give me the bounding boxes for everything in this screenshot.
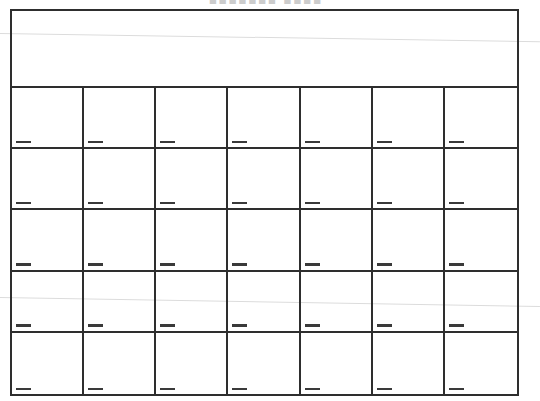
day-cell: [156, 210, 228, 271]
date-line-mark: [88, 202, 103, 205]
date-line-mark: [232, 388, 247, 391]
date-line-mark: [305, 202, 320, 205]
day-cell: [373, 210, 445, 271]
day-cell: [373, 333, 445, 394]
day-cell: [301, 272, 373, 333]
date-line-mark: [377, 141, 392, 144]
date-line-mark: [449, 141, 464, 144]
day-cell: [12, 210, 84, 271]
day-cell: [228, 88, 300, 149]
day-cell: [84, 210, 156, 271]
date-line-mark: [88, 388, 103, 391]
day-cell: [373, 88, 445, 149]
date-line-mark: [305, 324, 320, 327]
date-line-mark: [88, 141, 103, 144]
day-cell: [156, 149, 228, 210]
day-cell: [156, 333, 228, 394]
date-line-mark: [377, 324, 392, 327]
date-line-mark: [232, 141, 247, 144]
date-line-mark: [377, 263, 392, 266]
day-cell: [12, 88, 84, 149]
day-cell: [84, 333, 156, 394]
date-line-mark: [16, 202, 31, 205]
date-line-mark: [16, 263, 31, 266]
day-cell: [228, 210, 300, 271]
date-line-mark: [377, 202, 392, 205]
day-cell: [301, 210, 373, 271]
calendar-sheet: [10, 9, 519, 396]
date-line-mark: [16, 388, 31, 391]
day-cell: [156, 88, 228, 149]
date-line-mark: [305, 388, 320, 391]
cropped-page-title-text: ■■■■■■■ ■■■■: [209, 0, 323, 4]
date-line-mark: [449, 388, 464, 391]
day-cell: [84, 88, 156, 149]
date-line-mark: [16, 141, 31, 144]
date-line-mark: [16, 324, 31, 327]
day-cell: [445, 88, 517, 149]
day-cell: [84, 149, 156, 210]
date-line-mark: [377, 388, 392, 391]
day-cell: [156, 272, 228, 333]
day-cell: [12, 333, 84, 394]
day-cell: [445, 210, 517, 271]
cropped-page-title: ■■■■■■■ ■■■■: [0, 0, 532, 4]
date-line-mark: [160, 141, 175, 144]
date-line-mark: [88, 263, 103, 266]
day-cell: [301, 88, 373, 149]
day-cell: [228, 333, 300, 394]
date-line-mark: [232, 324, 247, 327]
date-line-mark: [449, 324, 464, 327]
day-cell: [12, 272, 84, 333]
day-cell: [228, 149, 300, 210]
date-line-mark: [305, 263, 320, 266]
date-line-mark: [305, 141, 320, 144]
day-cell: [301, 149, 373, 210]
day-cell: [373, 272, 445, 333]
date-line-mark: [160, 388, 175, 391]
date-line-mark: [160, 324, 175, 327]
day-cell: [445, 149, 517, 210]
day-cell: [301, 333, 373, 394]
calendar-grid: [12, 88, 517, 394]
date-line-mark: [449, 263, 464, 266]
day-cell: [373, 149, 445, 210]
day-cell: [445, 333, 517, 394]
date-line-mark: [160, 263, 175, 266]
day-cell: [228, 272, 300, 333]
date-line-mark: [88, 324, 103, 327]
date-line-mark: [232, 202, 247, 205]
day-cell: [84, 272, 156, 333]
date-line-mark: [449, 202, 464, 205]
calendar-header-band: [12, 11, 517, 88]
day-cell: [445, 272, 517, 333]
day-cell: [12, 149, 84, 210]
date-line-mark: [160, 202, 175, 205]
date-line-mark: [232, 263, 247, 266]
